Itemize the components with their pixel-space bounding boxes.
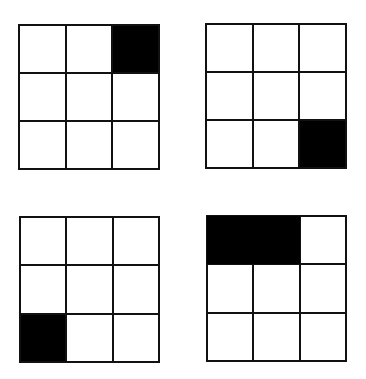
grid-bottom-right (206, 215, 347, 362)
grid-cell-r0-c1 (253, 24, 300, 72)
grid-cell-r2-c0 (207, 313, 253, 361)
grid-bottom-left (19, 216, 160, 363)
grid-top-right (205, 23, 347, 169)
grid-cell-r0-c2 (113, 217, 159, 265)
grid-cell-r1-c0 (20, 265, 66, 313)
grid-cell-r2-c0 (19, 121, 66, 169)
grid-top-left (18, 24, 160, 170)
grid-cell-r0-c2 (112, 25, 159, 73)
grid-cell-r0-c0 (206, 24, 253, 72)
grid-cell-r1-c0 (206, 72, 253, 120)
grid-cell-r2-c2 (300, 313, 346, 361)
grid-cell-r1-c2 (112, 73, 159, 121)
grid-cell-r2-c1 (253, 313, 299, 361)
grid-cell-r1-c2 (299, 72, 346, 120)
grid-cell-r1-c1 (66, 265, 112, 313)
grid-cell-r2-c1 (66, 314, 112, 362)
grid-cell-r1-c1 (253, 264, 299, 312)
grid-cell-r1-c1 (66, 73, 113, 121)
grid-cell-r0-c1 (66, 217, 112, 265)
grid-cell-r0-c1 (66, 25, 113, 73)
grid-cell-r2-c1 (253, 120, 300, 168)
grid-cell-r1-c0 (19, 73, 66, 121)
grid-cell-r1-c2 (300, 264, 346, 312)
grid-cell-r0-c0 (20, 217, 66, 265)
grid-cell-r1-c2 (113, 265, 159, 313)
grid-cell-r0-c2 (300, 216, 346, 264)
merged-filled-region (207, 216, 300, 264)
grid-cell-r0-c0 (19, 25, 66, 73)
grid-cell-r2-c0 (20, 314, 66, 362)
grid-cell-r1-c0 (207, 264, 253, 312)
grid-cell-r0-c2 (299, 24, 346, 72)
grid-cell-r1-c1 (253, 72, 300, 120)
grid-cell-r2-c1 (66, 121, 113, 169)
grid-cell-r2-c0 (206, 120, 253, 168)
grid-cell-r2-c2 (113, 314, 159, 362)
grid-cell-r2-c2 (299, 120, 346, 168)
grid-cell-r2-c2 (112, 121, 159, 169)
